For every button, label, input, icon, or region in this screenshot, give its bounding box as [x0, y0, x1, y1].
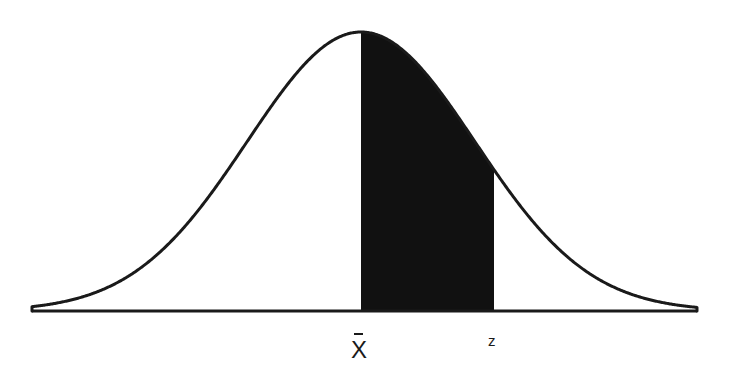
mean-label-text: X — [351, 336, 367, 363]
z-label: z — [488, 333, 496, 348]
mean-overbar — [354, 333, 363, 335]
mean-label: X — [351, 338, 367, 362]
normal-distribution-diagram — [0, 0, 741, 380]
